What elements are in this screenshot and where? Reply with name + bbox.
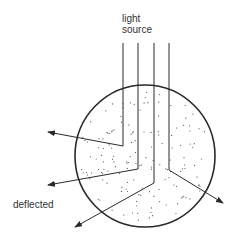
light-rays <box>48 43 223 227</box>
light-ray-4 <box>169 43 223 203</box>
medium-circle <box>75 85 215 227</box>
deflected-label: deflected <box>13 199 54 210</box>
scattering-diagram: light source deflected <box>0 0 228 241</box>
label-source: source <box>122 24 152 35</box>
label-light: light <box>122 13 152 24</box>
light-ray-2 <box>48 43 138 185</box>
light-source-label: light source <box>122 13 152 35</box>
particle-dots <box>81 92 205 221</box>
light-ray-3 <box>75 43 154 227</box>
